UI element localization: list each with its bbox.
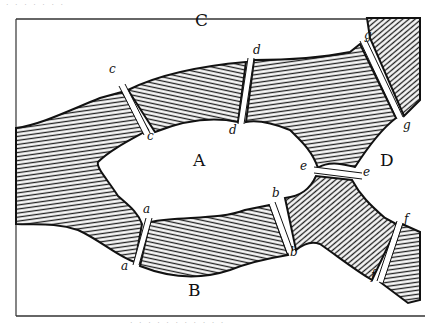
- river-south-2: [285, 176, 398, 280]
- bridge-d-label-south: d: [229, 124, 237, 136]
- landmass-label-a: A: [193, 152, 205, 169]
- bridge-f-label-south: f: [371, 269, 375, 281]
- bridge-e-label-east: e: [363, 166, 370, 178]
- bridge-g-label-south: g: [403, 119, 411, 131]
- river-north-1: [128, 62, 246, 132]
- bridge-c-label-north: c: [109, 63, 116, 75]
- bridge-e-label-west: e: [300, 160, 307, 172]
- landmass-label-b: B: [188, 282, 201, 299]
- bridge-b-label-north: b: [272, 187, 280, 199]
- bridge-c-label-south: c: [147, 130, 154, 142]
- cropped-caption-bottom: · · · · · · · · · · ·: [130, 318, 225, 327]
- river-west: [16, 92, 148, 262]
- bridges-figure: · · · · · · · A B C D a a b b c c d d e …: [0, 0, 437, 328]
- landmass-label-d: D: [380, 152, 394, 169]
- bridge-f-label-north: f: [404, 213, 408, 225]
- bridge-e: [314, 170, 362, 176]
- cropped-caption-top: · · · · · · ·: [6, 0, 65, 9]
- bridge-d-label-north: d: [253, 44, 261, 56]
- landmass-label-c: C: [195, 12, 208, 29]
- bridge-a-label-north: a: [143, 203, 150, 215]
- bridge-a-label-south: a: [121, 260, 128, 272]
- bridge-b-label-south: b: [290, 246, 298, 258]
- river-south-1: [140, 205, 288, 276]
- bridge-g-label-north: g: [364, 29, 372, 41]
